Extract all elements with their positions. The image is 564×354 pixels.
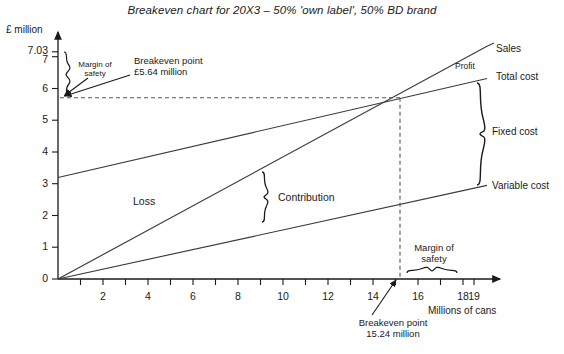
y-axis-ticks [52, 52, 58, 279]
breakeven-volume-line-2: 15.24 million [333, 328, 453, 339]
contribution-label: Contribution [278, 191, 335, 203]
y-tick-label-6: 6 [10, 82, 48, 94]
y-tick-label-0: 0 [10, 272, 48, 284]
loss-region-label: Loss [133, 195, 155, 207]
margin-of-safety-vertical-label: Margin of safety [72, 60, 118, 78]
series-leader-lines [487, 43, 494, 46]
x-tick-label-12: 12 [318, 290, 338, 302]
series-label-variable-cost: Variable cost [492, 180, 549, 191]
x-axis [58, 279, 500, 285]
x-tick-label-10: 10 [273, 290, 293, 302]
breakeven-volume-annotation: Breakeven point 15.24 million [333, 317, 453, 340]
x-tick-label-14: 14 [363, 290, 383, 302]
series-label-fixed-cost: Fixed cost [492, 126, 538, 137]
breakeven-value-line-1: Breakeven point [134, 55, 203, 66]
x-tick-label-6: 6 [183, 290, 203, 302]
y-tick-label-1: 1 [10, 240, 48, 252]
breakeven-volume-line-1: Breakeven point [333, 317, 453, 328]
y-tick-label-5: 5 [10, 113, 48, 125]
breakeven-value-annotation: Breakeven point £5.64 million [134, 55, 203, 78]
x-tick-label-19: 19 [464, 290, 484, 302]
y-tick-label-7: 7 [10, 53, 48, 65]
margin-of-safety-h-line-2: safety [409, 254, 459, 265]
x-axis-ticks [81, 279, 475, 285]
margin-of-safety-horizontal-label: Margin of safety [409, 243, 459, 265]
y-tick-label-3: 3 [10, 177, 48, 189]
margin-of-safety-vertical-brace [64, 52, 70, 96]
breakeven-chart-page: Breakeven chart for 20X3 – 50% 'own labe… [0, 0, 564, 354]
x-tick-label-4: 4 [138, 290, 158, 302]
margin-of-safety-horizontal-brace [407, 267, 457, 273]
variable-cost-line [58, 185, 487, 279]
x-tick-label-16: 16 [408, 290, 428, 302]
x-tick-label-8: 8 [228, 290, 248, 302]
y-tick-label-2: 2 [10, 209, 48, 221]
series-label-sales: Sales [496, 43, 521, 54]
series-label-total-cost: Total cost [496, 71, 538, 82]
breakeven-value-line-2: £5.64 million [134, 66, 203, 77]
y-axis-title: £ million [6, 24, 43, 35]
y-axis [52, 32, 58, 279]
fixed-cost-brace [477, 83, 485, 185]
y-tick-label-4: 4 [10, 145, 48, 157]
contribution-brace [262, 172, 268, 222]
x-axis-title: Millions of cans [428, 305, 496, 316]
x-tick-label-2: 2 [93, 290, 113, 302]
margin-of-safety-v-line-1: Margin of [72, 60, 118, 69]
margin-of-safety-v-line-2: safety [72, 69, 118, 78]
profit-region-label: Profit [455, 61, 475, 71]
